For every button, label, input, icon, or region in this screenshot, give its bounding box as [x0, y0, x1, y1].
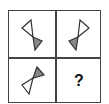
cell-bottom-right: ?	[56, 58, 102, 104]
cell-top-right	[56, 11, 102, 57]
puzzle-grid: ?	[8, 10, 101, 103]
cell-top-left	[9, 11, 55, 57]
bowtie-icon	[56, 11, 102, 57]
bowtie-icon	[9, 11, 55, 57]
cell-bottom-left	[9, 58, 55, 104]
question-mark: ?	[56, 58, 102, 104]
bowtie-icon	[9, 58, 55, 104]
